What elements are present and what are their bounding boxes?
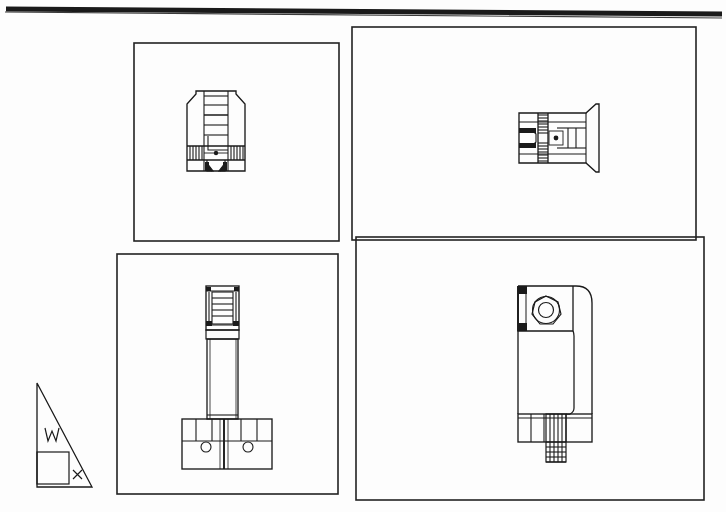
side-head-mark-br [233, 321, 239, 326]
front-foot-block-left [205, 162, 209, 171]
side-head-mark-tl [206, 287, 211, 291]
side-head-mark-tr [234, 287, 239, 291]
drawing-sheet [0, 0, 726, 512]
front-center-pin-dot [214, 151, 218, 155]
sheet-background [0, 0, 726, 512]
section-pad-bottom [518, 323, 527, 331]
drawing-canvas [0, 0, 726, 512]
top-jaw-tip-upper [519, 128, 536, 133]
section-pad-top [518, 286, 527, 294]
side-head-mark-bl [206, 321, 212, 326]
front-foot-block-right [223, 162, 227, 171]
top-center-pin-dot [554, 136, 559, 141]
top-jaw-tip-lower [519, 143, 536, 148]
